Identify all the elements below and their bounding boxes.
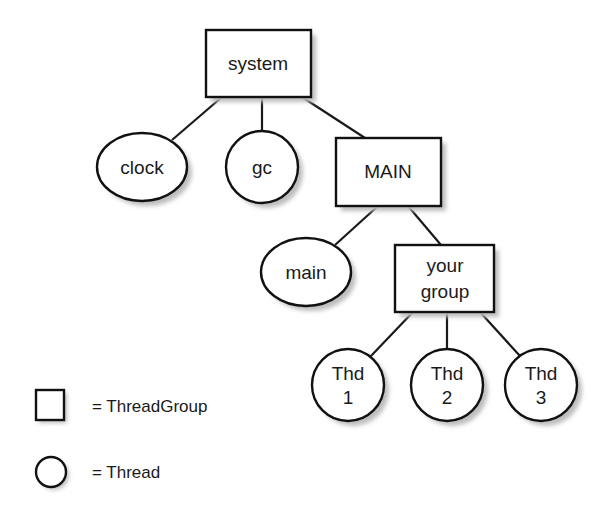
- edge-system-main-group: [302, 97, 365, 138]
- node-label-line1: Thd: [431, 363, 464, 384]
- square-icon: [36, 390, 64, 420]
- node-label: clock: [120, 157, 164, 178]
- node-label: system: [228, 53, 288, 74]
- edge-system-clock: [172, 97, 222, 140]
- node-label-line1: Thd: [525, 363, 558, 384]
- thread-tree-diagram: system clock gc MAIN main your group Thd…: [0, 0, 615, 515]
- node-MAIN: MAIN: [336, 138, 446, 211]
- node-label-line1: Thd: [332, 363, 365, 384]
- legend-label: = Thread: [92, 463, 160, 482]
- node-label-line2: 1: [343, 387, 354, 408]
- edges: [172, 97, 520, 357]
- node-thd3: Thd 3: [505, 349, 582, 426]
- node-label-line1: your: [427, 255, 465, 276]
- node-main: main: [261, 238, 356, 311]
- node-gc: gc: [226, 131, 303, 208]
- node-your-group: your group: [395, 245, 499, 317]
- legend-label: = ThreadGroup: [92, 397, 207, 416]
- edge-your-group-thd3: [480, 312, 520, 356]
- node-label-line2: group: [421, 281, 470, 302]
- edge-main-group-main: [335, 206, 378, 245]
- legend-item-thread: = Thread: [36, 457, 160, 490]
- node-label-line2: 3: [536, 387, 547, 408]
- legend: = ThreadGroup = Thread: [36, 390, 207, 490]
- thread-ellipse: [505, 349, 577, 421]
- edge-your-group-thd1: [370, 312, 413, 357]
- circle-icon: [36, 457, 66, 487]
- node-thd2: Thd 2: [411, 349, 488, 426]
- legend-item-threadgroup: = ThreadGroup: [36, 390, 207, 423]
- node-thd1: Thd 1: [312, 349, 389, 426]
- node-clock: clock: [97, 133, 192, 206]
- node-label: main: [285, 262, 326, 283]
- edge-main-group-your-group: [408, 206, 441, 245]
- thread-ellipse: [312, 349, 384, 421]
- node-label: MAIN: [364, 161, 412, 182]
- node-system: system: [206, 30, 316, 102]
- node-label: gc: [252, 157, 272, 178]
- node-label-line2: 2: [442, 387, 453, 408]
- thread-ellipse: [411, 349, 483, 421]
